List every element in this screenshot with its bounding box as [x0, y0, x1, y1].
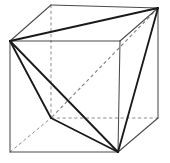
figure-canvas: Cube with inscribed regular tetrahedron: [0, 0, 170, 163]
cube-tetrahedron-diagram: Cube with inscribed regular tetrahedron: [0, 0, 170, 163]
